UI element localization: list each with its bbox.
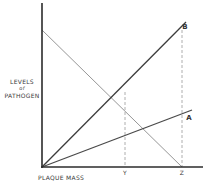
y-axis-label-line2: of (2, 85, 42, 92)
x-tick-y: Y (121, 169, 129, 176)
x-tick-z: Z (178, 169, 186, 176)
series-b-line (42, 22, 186, 167)
series-a-line (42, 110, 192, 167)
x-axis-label: PLAQUE MASS (38, 174, 98, 181)
y-axis-label-line3: PATHOGEN (2, 92, 42, 99)
y-axis-label-line1: LEVELS (2, 78, 42, 85)
y-axis-label: LEVELS of PATHOGEN (2, 78, 42, 99)
series-b-label: B (181, 24, 189, 31)
series-a-label: A (185, 115, 193, 122)
